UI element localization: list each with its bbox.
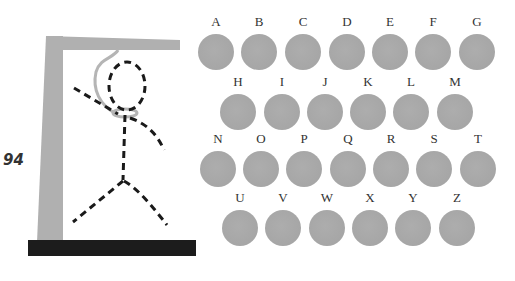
letter-disc[interactable]: [264, 94, 300, 130]
rope: [95, 50, 118, 114]
letter-disc[interactable]: [222, 210, 258, 246]
letter-disc[interactable]: [372, 34, 408, 70]
letter-disc[interactable]: [439, 210, 475, 246]
figure-head: [109, 62, 145, 110]
hangman-figure: [73, 62, 167, 225]
letter-disc[interactable]: [329, 34, 365, 70]
letter-key-m[interactable]: M: [433, 74, 477, 130]
letter-disc[interactable]: [220, 94, 256, 130]
letter-key-a[interactable]: A: [194, 14, 238, 70]
key-label: O: [239, 131, 283, 147]
letter-key-z[interactable]: Z: [435, 190, 479, 246]
key-label: Q: [326, 131, 370, 147]
key-label: K: [346, 74, 390, 90]
letter-key-h[interactable]: H: [216, 74, 260, 130]
letter-disc[interactable]: [437, 94, 473, 130]
letter-disc[interactable]: [241, 34, 277, 70]
key-label: X: [348, 190, 392, 206]
letter-key-j[interactable]: J: [303, 74, 347, 130]
key-label: R: [369, 131, 413, 147]
gallows-beam: [46, 36, 180, 50]
letter-disc[interactable]: [373, 151, 409, 187]
letter-key-b[interactable]: B: [237, 14, 281, 70]
gallows-post: [37, 36, 63, 242]
figure-body: [123, 115, 125, 180]
letter-disc[interactable]: [307, 94, 343, 130]
letter-disc[interactable]: [198, 34, 234, 70]
key-label: Z: [435, 190, 479, 206]
letter-disc[interactable]: [265, 210, 301, 246]
key-label: U: [218, 190, 262, 206]
letter-key-s[interactable]: S: [412, 131, 456, 187]
hangman-gallows: [0, 0, 200, 281]
gallows-base: [28, 240, 196, 256]
letter-disc[interactable]: [393, 94, 429, 130]
letter-key-v[interactable]: V: [261, 190, 305, 246]
key-label: I: [260, 74, 304, 90]
key-label: H: [216, 74, 260, 90]
letter-key-c[interactable]: C: [281, 14, 325, 70]
key-label: P: [282, 131, 326, 147]
letter-key-e[interactable]: E: [368, 14, 412, 70]
key-label: C: [281, 14, 325, 30]
letter-key-x[interactable]: X: [348, 190, 392, 246]
key-label: W: [305, 190, 349, 206]
key-label: A: [194, 14, 238, 30]
letter-key-r[interactable]: R: [369, 131, 413, 187]
letter-disc[interactable]: [309, 210, 345, 246]
key-label: F: [411, 14, 455, 30]
key-label: Y: [391, 190, 435, 206]
letter-key-i[interactable]: I: [260, 74, 304, 130]
key-label: L: [389, 74, 433, 90]
letter-key-y[interactable]: Y: [391, 190, 435, 246]
key-label: J: [303, 74, 347, 90]
letter-disc[interactable]: [416, 151, 452, 187]
letter-disc[interactable]: [459, 34, 495, 70]
letter-key-k[interactable]: K: [346, 74, 390, 130]
letter-key-t[interactable]: T: [456, 131, 500, 187]
figure-left-leg: [73, 181, 123, 222]
letter-disc[interactable]: [352, 210, 388, 246]
key-label: T: [456, 131, 500, 147]
key-label: B: [237, 14, 281, 30]
letter-disc[interactable]: [286, 151, 322, 187]
letter-disc[interactable]: [460, 151, 496, 187]
letter-key-f[interactable]: F: [411, 14, 455, 70]
letter-disc[interactable]: [285, 34, 321, 70]
letter-disc[interactable]: [350, 94, 386, 130]
key-label: N: [196, 131, 240, 147]
letter-disc[interactable]: [415, 34, 451, 70]
letter-disc[interactable]: [200, 151, 236, 187]
key-label: M: [433, 74, 477, 90]
letter-key-p[interactable]: P: [282, 131, 326, 187]
letter-key-q[interactable]: Q: [326, 131, 370, 187]
key-label: G: [455, 14, 499, 30]
letter-key-n[interactable]: N: [196, 131, 240, 187]
key-label: D: [325, 14, 369, 30]
letter-key-o[interactable]: O: [239, 131, 283, 187]
letter-key-d[interactable]: D: [325, 14, 369, 70]
letter-key-l[interactable]: L: [389, 74, 433, 130]
letter-key-u[interactable]: U: [218, 190, 262, 246]
letter-disc[interactable]: [395, 210, 431, 246]
letter-key-w[interactable]: W: [305, 190, 349, 246]
key-label: E: [368, 14, 412, 30]
letter-disc[interactable]: [243, 151, 279, 187]
key-label: V: [261, 190, 305, 206]
letter-disc[interactable]: [330, 151, 366, 187]
figure-right-leg: [124, 181, 167, 225]
figure-right-arm: [130, 118, 164, 150]
key-label: S: [412, 131, 456, 147]
letter-key-g[interactable]: G: [455, 14, 499, 70]
